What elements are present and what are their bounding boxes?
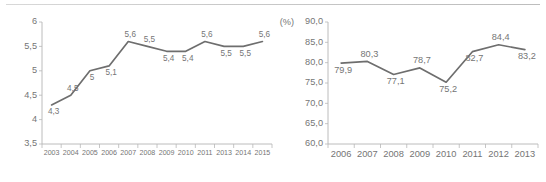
y-axis-tick-label: 5,5 bbox=[24, 41, 37, 51]
x-axis-tick-label: 2015 bbox=[255, 149, 271, 157]
x-axis-tick-label: 2013 bbox=[515, 149, 536, 159]
data-point-value-label: 5,4 bbox=[182, 54, 194, 63]
data-point-value-label: 83,2 bbox=[518, 51, 536, 61]
data-point-value-label: 5,1 bbox=[105, 68, 117, 77]
line-chart-left: 65,554,543,52003200420052006200720082009… bbox=[0, 0, 280, 182]
data-point-value-label: 5,6 bbox=[201, 30, 213, 39]
data-point-value-label: 5,4 bbox=[163, 54, 175, 63]
data-point-value-label: 82,7 bbox=[465, 53, 483, 63]
x-axis-tick-label: 2013 bbox=[216, 149, 232, 157]
y-axis-tick-label: 4 bbox=[32, 114, 37, 124]
data-point-value-label: 5,5 bbox=[220, 49, 232, 58]
data-point-value-label: 4,5 bbox=[67, 84, 79, 93]
data-point-value-label: 84,4 bbox=[492, 32, 510, 42]
x-axis-tick-label: 2009 bbox=[159, 149, 175, 157]
x-axis-tick-label: 2005 bbox=[82, 149, 98, 157]
data-point-value-label: 5 bbox=[90, 73, 95, 82]
y-axis-tick-label: 6 bbox=[32, 16, 37, 26]
x-axis-tick-label: 2011 bbox=[462, 149, 482, 159]
x-axis-tick-label: 2010 bbox=[436, 149, 457, 159]
data-point-value-label: 4,3 bbox=[48, 107, 60, 116]
x-axis-tick-label: 2010 bbox=[178, 149, 194, 157]
data-point-value-label: 5,6 bbox=[259, 30, 271, 39]
data-point-value-label: 77,1 bbox=[387, 76, 405, 86]
line-chart-left-canvas: 65,554,543,52003200420052006200720082009… bbox=[0, 0, 280, 182]
x-axis-tick-label: 2009 bbox=[410, 149, 431, 159]
x-axis-tick-label: 2014 bbox=[235, 149, 251, 157]
y-axis-tick-label: 85,0 bbox=[305, 37, 323, 47]
data-point-value-label: 5,6 bbox=[125, 30, 137, 39]
x-axis-tick-label: 2007 bbox=[357, 149, 378, 159]
x-axis-tick-label: 2008 bbox=[383, 149, 404, 159]
data-point-value-label: 78,7 bbox=[413, 55, 431, 65]
y-axis-tick-label: 75,0 bbox=[305, 77, 323, 87]
x-axis-tick-label: 2008 bbox=[140, 149, 156, 157]
axis-unit-label: (%) bbox=[280, 17, 294, 27]
y-axis-tick-label: 90,0 bbox=[305, 16, 323, 26]
x-axis-tick-label: 2012 bbox=[488, 149, 509, 159]
line-chart-right: 90,085,080,075,070,065,060,0200620072008… bbox=[272, 0, 546, 182]
y-axis-tick-label: 4,5 bbox=[24, 90, 37, 100]
x-axis-tick-label: 2006 bbox=[331, 149, 352, 159]
line-chart-right-canvas: 90,085,080,075,070,065,060,0200620072008… bbox=[272, 0, 546, 182]
data-point-value-label: 75,2 bbox=[439, 84, 457, 94]
y-axis-tick-label: 3,5 bbox=[24, 138, 37, 148]
x-axis-tick-label: 2011 bbox=[197, 149, 212, 157]
data-point-value-label: 5,5 bbox=[144, 35, 156, 44]
x-axis-tick-label: 2007 bbox=[120, 149, 136, 157]
y-axis-tick-label: 80,0 bbox=[305, 57, 323, 67]
y-axis-tick-label: 65,0 bbox=[305, 118, 323, 128]
y-axis-tick-label: 60,0 bbox=[305, 138, 323, 148]
x-axis-tick-label: 2006 bbox=[101, 149, 117, 157]
y-axis-tick-label: 5 bbox=[32, 65, 37, 75]
data-point-value-label: 79,9 bbox=[334, 65, 352, 75]
x-axis-tick-label: 2003 bbox=[44, 149, 60, 157]
x-axis-tick-label: 2004 bbox=[63, 149, 79, 157]
y-axis-tick-label: 70,0 bbox=[305, 98, 323, 108]
data-point-value-label: 80,3 bbox=[360, 49, 378, 59]
data-point-value-label: 5,5 bbox=[240, 49, 252, 58]
